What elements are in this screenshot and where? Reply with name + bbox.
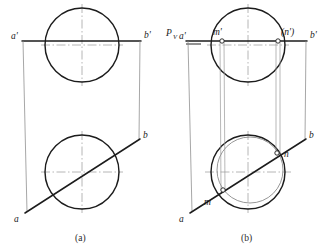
label-a-prime-a: a' — [11, 31, 19, 41]
line-a-b — [25, 139, 140, 213]
label-a-prime-b: a' — [179, 31, 187, 41]
label-m: m — [204, 197, 211, 207]
label-b-prime-a: b' — [144, 30, 152, 40]
projector-right-b — [305, 41, 306, 140]
label-b-prime-b: b' — [310, 30, 318, 40]
panel-b: P V a' m' (n') b' a b m n (b) — [165, 4, 318, 244]
projector-right-a — [139, 41, 140, 140]
label-m-prime: m' — [213, 27, 223, 37]
point-m-prime — [220, 39, 224, 43]
label-a-a: a — [14, 214, 19, 224]
figure-container: a' b' a b (a) — [0, 0, 328, 250]
circle-bottom-inner-b — [217, 137, 283, 203]
point-n-prime — [276, 39, 280, 43]
label-n-prime: (n') — [281, 27, 294, 38]
label-pv-subscript: V — [173, 33, 178, 40]
drawing-canvas: a' b' a b (a) — [0, 0, 328, 250]
label-b-a: b — [143, 130, 148, 140]
point-n — [275, 151, 279, 155]
projector-left-a — [23, 41, 27, 212]
caption-panel-a: (a) — [75, 233, 86, 244]
projector-left-b — [188, 41, 192, 212]
projector-m-left — [220, 41, 221, 190]
panel-a: a' b' a b (a) — [11, 4, 152, 244]
label-n: n — [284, 149, 289, 159]
label-b-b: b — [309, 130, 314, 140]
caption-panel-b: (b) — [241, 233, 252, 244]
label-pv: P — [165, 28, 172, 38]
point-m — [221, 188, 225, 192]
projector-m-right — [224, 41, 225, 190]
label-a-b: a — [179, 214, 184, 224]
